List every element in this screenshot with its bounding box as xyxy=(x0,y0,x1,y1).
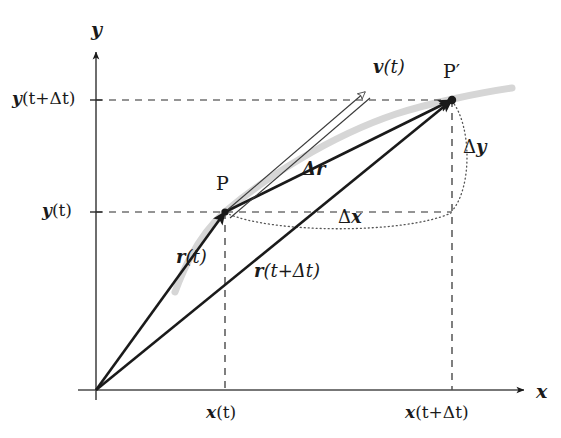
delta-y-symbol: y xyxy=(476,136,486,157)
point-label-P-prime: P′ xyxy=(443,62,460,81)
vector-label-v-t: v(t) xyxy=(373,58,405,76)
vector-label-r-t: r(t) xyxy=(176,248,207,266)
r-t-argument: (t) xyxy=(185,246,206,267)
vector-diagram-figure: y x y(t+Δt) y(t) x(t) x(t+Δt) P P′ r(t) … xyxy=(0,0,561,438)
diagram-canvas xyxy=(0,0,561,438)
x-tick-left-symbol: x xyxy=(206,402,216,422)
y-tick-upper-symbol: y xyxy=(12,88,22,108)
x-tick-right-symbol: x xyxy=(405,402,415,422)
vector-r-t-plus-dt xyxy=(96,100,452,390)
v-t-symbol: v xyxy=(373,56,383,77)
v-t-argument: (t) xyxy=(383,56,404,77)
point-P-dot xyxy=(221,208,228,215)
x-tick-right-argument: (t+Δt) xyxy=(415,402,468,422)
vector-label-delta-r: Δr xyxy=(302,160,325,178)
x-tick-left-argument: (t) xyxy=(216,402,236,422)
y-tick-label-upper: y(t+Δt) xyxy=(12,90,75,107)
vector-label-r-t-plus-dt: r(t+Δt) xyxy=(254,262,320,280)
y-tick-lower-argument: (t) xyxy=(52,200,72,220)
point-label-P: P xyxy=(216,174,229,193)
r-t-dt-argument: (t+Δt) xyxy=(263,260,320,281)
delta-x-delta: Δ xyxy=(338,206,351,227)
vector-v-t xyxy=(225,92,370,218)
delta-r-symbol: Δr xyxy=(302,158,325,179)
y-tick-label-lower: y(t) xyxy=(42,202,72,219)
vector-delta-r xyxy=(225,100,452,212)
axes xyxy=(78,52,524,400)
x-tick-label-right: x(t+Δt) xyxy=(405,404,469,421)
brace-label-delta-x: Δx xyxy=(338,208,362,226)
y-tick-upper-argument: (t+Δt) xyxy=(22,88,75,108)
y-axis-label: y xyxy=(91,20,102,39)
x-axis-label: x xyxy=(536,382,547,401)
delta-x-symbol: x xyxy=(351,206,362,227)
brace-label-delta-y: Δy xyxy=(463,138,486,156)
point-Pprime-dot xyxy=(448,96,456,104)
x-tick-label-left: x(t) xyxy=(206,404,236,421)
delta-y-delta: Δ xyxy=(463,136,476,157)
vectors xyxy=(96,92,456,390)
y-tick-lower-symbol: y xyxy=(42,200,52,220)
